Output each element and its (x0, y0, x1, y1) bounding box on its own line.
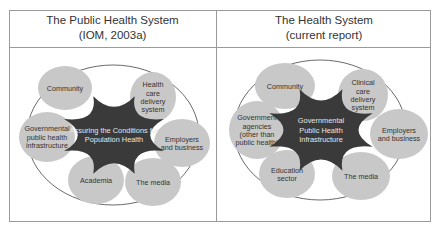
right-node-label-the-media: The media (344, 172, 378, 181)
left-node-label-governmental-public-health-infrastructure: Governmentalpublic healthinfrastructure (24, 124, 70, 149)
left-node-label-health-care-delivery-system: Healthcaredeliverysystem (141, 80, 166, 114)
left-node-label-community: Community (47, 84, 84, 93)
right-node-label-community: Community (267, 82, 304, 91)
right-node-label-employers-and-business: Employersand business (378, 126, 421, 143)
right-node-label-government-agencies: Governmentagencies(other thanpublic heal… (236, 113, 279, 147)
left-node-label-the-media: The media (136, 178, 170, 187)
left-node-label-employers-and-business: Employersand business (161, 135, 204, 152)
left-node-label-academia: Academia (80, 176, 112, 185)
right-center-label: GovernmentalPublic HealthInfrastructure (298, 116, 345, 144)
diagram-canvas: Assuring the Conditions forPopulation He… (0, 0, 439, 234)
right-node-label-clinical-care-delivery-system: Clinicalcaredeliverysystem (351, 78, 376, 112)
